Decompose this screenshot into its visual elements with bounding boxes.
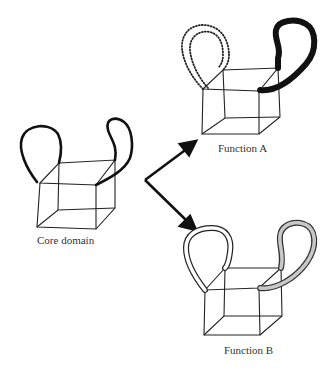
function-a-cube	[202, 68, 280, 134]
function-b-label: Function B	[224, 344, 273, 356]
diagram-canvas	[0, 0, 333, 368]
core-domain-cube	[37, 160, 115, 229]
core-domain-label: Core domain	[37, 234, 94, 246]
arrows	[145, 141, 196, 230]
function-b-cube	[204, 268, 282, 335]
core-domain-loops	[21, 119, 132, 185]
function-a-loops	[182, 21, 314, 91]
function-a-label: Function A	[218, 142, 267, 154]
function-b-loops	[186, 223, 314, 290]
